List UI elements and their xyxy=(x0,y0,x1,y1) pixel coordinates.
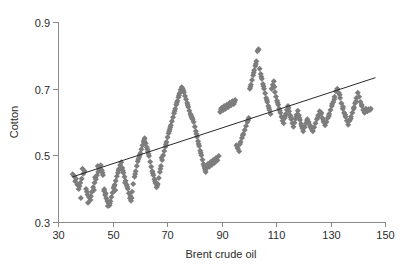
scatter-chart: 0.30.50.70.9 30507090110130150 Brent cru… xyxy=(0,0,407,273)
data-point xyxy=(199,157,205,163)
x-tick-label: 110 xyxy=(268,229,286,241)
data-point xyxy=(192,124,198,130)
y-axis-title: Cotton xyxy=(8,106,20,138)
y-tick-label: 0.7 xyxy=(35,84,50,96)
y-axis-tick-labels: 0.30.50.70.9 xyxy=(35,17,50,229)
data-point xyxy=(161,148,167,154)
data-point xyxy=(108,194,114,200)
x-tick-label: 50 xyxy=(107,229,119,241)
data-point xyxy=(134,163,140,169)
data-point xyxy=(262,90,268,96)
y-axis-ticks xyxy=(53,23,58,223)
data-point xyxy=(78,195,84,201)
x-tick-label: 130 xyxy=(322,229,340,241)
x-axis-tick-labels: 30507090110130150 xyxy=(52,229,394,241)
data-point xyxy=(147,159,153,165)
y-tick-label: 0.3 xyxy=(35,217,50,229)
chart-canvas: 0.30.50.70.9 30507090110130150 Brent cru… xyxy=(0,0,407,273)
x-tick-label: 90 xyxy=(216,229,228,241)
data-point xyxy=(130,181,136,187)
trend-line xyxy=(72,78,375,177)
data-point xyxy=(249,77,255,83)
x-tick-label: 70 xyxy=(161,229,173,241)
x-tick-label: 30 xyxy=(52,229,64,241)
data-point xyxy=(148,164,154,170)
y-tick-label: 0.9 xyxy=(35,17,50,29)
x-axis-title: Brent crude oil xyxy=(186,248,257,260)
x-tick-label: 150 xyxy=(376,229,394,241)
y-tick-label: 0.5 xyxy=(35,150,50,162)
